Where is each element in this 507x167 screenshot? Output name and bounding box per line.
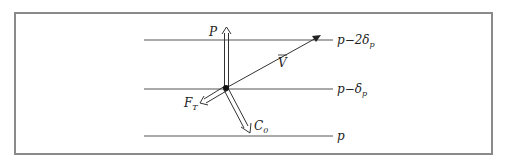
svg-text:V: V bbox=[278, 56, 288, 70]
level-label-middle: p−δp bbox=[337, 82, 367, 98]
vector-V-arrow bbox=[226, 35, 321, 88]
origin-point bbox=[223, 85, 229, 91]
label-V: V bbox=[278, 55, 288, 70]
label-P: P bbox=[208, 25, 218, 39]
level-label-top: p−2δp bbox=[337, 33, 375, 49]
label-FT: FT bbox=[183, 96, 198, 112]
level-label-bottom: p bbox=[337, 129, 345, 143]
label-C0: C0 bbox=[254, 119, 268, 135]
vector-C0-arrow bbox=[224, 88, 251, 133]
vector-P-arrow bbox=[222, 27, 231, 88]
force-diagram: P V FT C0 p−2δp p−δp p bbox=[0, 0, 507, 167]
